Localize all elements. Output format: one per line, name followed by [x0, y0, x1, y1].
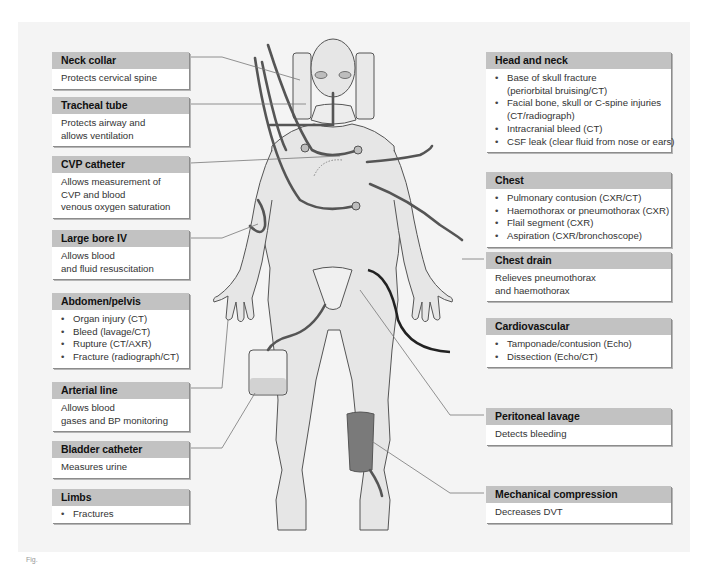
box-cvp-catheter: CVP catheter Allows measurement of CVP a…	[52, 156, 189, 218]
leader-bladder-catheter	[190, 393, 255, 448]
box-text: Allows measurement of	[61, 176, 181, 189]
box-arterial-line: Arterial line Allows blood gases and BP …	[52, 382, 189, 431]
box-neck-collar: Neck collar Protects cervical spine	[52, 52, 189, 89]
box-bladder-catheter: Bladder catheter Measures urine	[52, 441, 189, 478]
bullet-item: Organ injury (CT)	[61, 313, 181, 326]
box-title: CVP catheter	[52, 156, 189, 173]
bullet-item: Bleed (lavage/CT)	[61, 326, 181, 339]
bullet-item: Haemothorax or pneumothorax (CXR)	[495, 205, 663, 218]
box-limbs: Limbs Fractures	[52, 489, 189, 523]
box-large-bore-iv: Large bore IV Allows blood and fluid res…	[52, 230, 189, 279]
bullet-item: Fractures	[61, 508, 181, 521]
torso	[264, 124, 400, 530]
box-title: Head and neck	[486, 52, 671, 69]
box-text: venous oxygen saturation	[61, 201, 181, 214]
figure-label: Fig.	[26, 556, 38, 563]
leader-arterial-line	[190, 320, 228, 388]
box-text: Measures urine	[61, 461, 181, 474]
compression-sleeve	[347, 412, 374, 472]
bullet-item: Intracranial bleed (CT)	[495, 123, 663, 136]
eye-right	[339, 72, 351, 79]
box-text: Detects bleeding	[495, 428, 663, 441]
electrode	[352, 202, 360, 210]
box-text: Allows blood	[61, 250, 181, 263]
electrode	[354, 146, 362, 154]
box-title: Chest	[486, 172, 671, 189]
box-tracheal-tube: Tracheal tube Protects airway and allows…	[52, 97, 189, 146]
box-text: and fluid resuscitation	[61, 263, 181, 276]
bullet-item: Facial bone, skull or C-spine injuries (…	[495, 97, 663, 122]
bullet-item: Tamponade/contusion (Echo)	[495, 338, 663, 351]
box-text: gases and BP monitoring	[61, 415, 181, 428]
box-text: Decreases DVT	[495, 506, 663, 519]
box-head-and-neck: Head and neck Base of skull fracture (pe…	[486, 52, 671, 152]
box-title: Mechanical compression	[486, 486, 671, 503]
box-text: CVP and blood	[61, 189, 181, 202]
box-title: Limbs	[52, 489, 189, 506]
head-block-right	[356, 53, 374, 119]
box-title: Peritoneal lavage	[486, 408, 671, 425]
box-title: Large bore IV	[52, 230, 189, 247]
box-title: Chest drain	[486, 252, 671, 269]
box-chest: Chest Pulmonary contusion (CXR/CT) Haemo…	[486, 172, 671, 247]
bullet-item: Flail segment (CXR)	[495, 217, 663, 230]
bullet-item: Rupture (CT/AXR)	[61, 338, 181, 351]
head-block-left	[293, 53, 311, 119]
box-title: Tracheal tube	[52, 97, 189, 114]
arm-left	[214, 150, 273, 322]
eye-left	[315, 72, 327, 79]
box-text: and haemothorax	[495, 285, 663, 298]
box-text: Protects cervical spine	[61, 72, 181, 85]
arm-right	[394, 150, 453, 322]
box-peritoneal-lavage: Peritoneal lavage Detects bleeding	[486, 408, 671, 445]
electrode	[301, 144, 309, 152]
bullet-item: CSF leak (clear fluid from nose or ears)	[495, 136, 663, 149]
box-title: Neck collar	[52, 52, 189, 69]
box-text: Allows blood	[61, 402, 181, 415]
bullet-item: Base of skull fracture (periorbital brui…	[495, 72, 663, 97]
bullet-item: Aspiration (CXR/bronchoscope)	[495, 230, 663, 243]
bullet-item: Pulmonary contusion (CXR/CT)	[495, 192, 663, 205]
bullet-item: Dissection (Echo/CT)	[495, 351, 663, 364]
leader-large-bore-iv	[190, 224, 258, 238]
box-cardiovascular: Cardiovascular Tamponade/contusion (Echo…	[486, 318, 671, 367]
box-title: Bladder catheter	[52, 441, 189, 458]
box-title: Arterial line	[52, 382, 189, 399]
box-title: Abdomen/pelvis	[52, 293, 189, 310]
box-text: allows ventilation	[61, 130, 181, 143]
box-mechanical-compression: Mechanical compression Decreases DVT	[486, 486, 671, 523]
box-abdomen-pelvis: Abdomen/pelvis Organ injury (CT) Bleed (…	[52, 293, 189, 368]
box-title: Cardiovascular	[486, 318, 671, 335]
box-text: Relieves pneumothorax	[495, 272, 663, 285]
box-chest-drain: Chest drain Relieves pneumothorax and ha…	[486, 252, 671, 301]
leader-neck-collar	[190, 57, 300, 80]
box-text: Protects airway and	[61, 117, 181, 130]
bullet-item: Fracture (radiograph/CT)	[61, 351, 181, 364]
head	[311, 39, 355, 97]
